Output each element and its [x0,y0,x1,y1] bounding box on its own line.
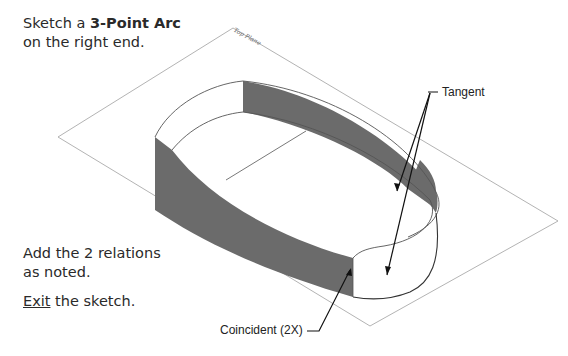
back-wall-face [243,81,438,212]
tangent-arrowhead-2 [385,266,391,275]
sketch-drawing [0,0,568,356]
center-line [226,131,306,180]
coincident-callout: Coincident (2X) [220,323,303,337]
tangent-arrowhead-1 [394,183,400,191]
three-point-arc [353,213,438,299]
front-wall-face [155,137,353,297]
tangent-callout: Tangent [442,85,485,99]
